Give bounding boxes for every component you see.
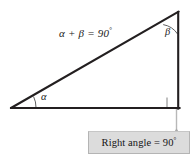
alpha-angle-arc-icon (34, 97, 36, 108)
right-angle-marker-icon (167, 98, 178, 108)
angle-sum-equation-text: α + β = 90 (59, 27, 109, 39)
geometry-figure: α + β = 90° α β Right angle = 90° (0, 0, 193, 157)
right-angle-callout-box: Right angle = 90° (88, 131, 190, 154)
angle-sum-equation: α + β = 90° (59, 28, 112, 39)
right-angle-callout: Right angle = 90° (102, 137, 177, 148)
alpha-angle-label: α (41, 92, 47, 103)
beta-angle-label: β (165, 27, 170, 38)
right-angle-callout-text: Right angle = 90 (102, 137, 174, 148)
callout-degree-symbol-icon: ° (174, 136, 177, 144)
degree-symbol-icon: ° (109, 26, 112, 34)
